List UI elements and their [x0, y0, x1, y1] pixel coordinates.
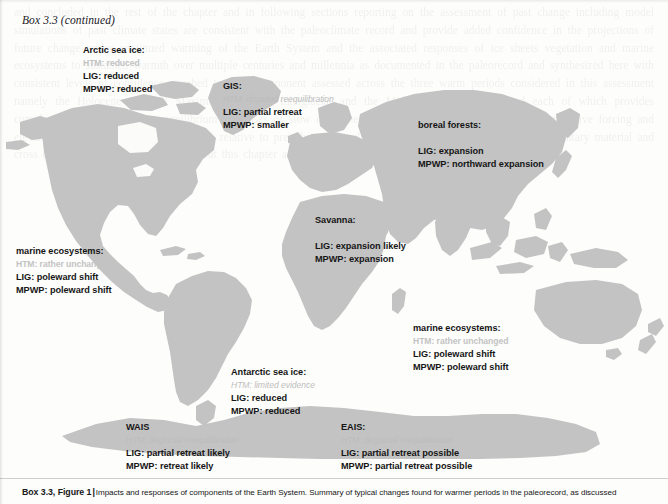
annotation-marine-ecosystems-east: marine ecosystems: HTM: rather unchanged… [413, 322, 508, 374]
annotation-title: GIS: [223, 80, 334, 93]
annotation-htm: HTM: disputed reequilibration [223, 93, 334, 106]
annotation-mpwp: MPWP: smaller [223, 119, 334, 132]
new-zealand-north-shape [648, 318, 664, 336]
box-continued-header: Box 3.3 (continued) [22, 14, 115, 26]
sulawesi-shape [548, 242, 568, 262]
annotation-title: marine ecosystems: [413, 322, 508, 335]
annotation-mpwp: MPWP: expansion [315, 253, 406, 266]
annotation-mpwp: MPWP: partial retreat possible [341, 460, 472, 473]
annotation-mpwp: MPWP: northward expansion [418, 158, 544, 171]
annotation-htm: HTM: reduced [83, 57, 152, 70]
annotation-lig: LIG: poleward shift [413, 348, 508, 361]
annotation-lig: LIG: reduced [83, 70, 152, 83]
annotation-arctic-sea-ice: Arctic sea ice: HTM: reduced LIG: reduce… [83, 44, 152, 96]
annotation-title: marine ecosystems: [16, 245, 111, 258]
annotation-mpwp: MPWP: reduced [83, 83, 152, 96]
annotation-title: Savanna: [315, 214, 406, 227]
indochina-shape [486, 216, 510, 246]
borneo-shape [514, 236, 548, 258]
annotation-htm: HTM: limited evidence [231, 379, 315, 392]
annotation-title: Antarctic sea ice: [231, 366, 315, 379]
annotation-lig: LIG: partial retreat likely [126, 447, 238, 460]
annotation-title: boreal forests: [418, 119, 544, 132]
annotation-lig: LIG: expansion likely [315, 240, 406, 253]
annotation-mpwp: MPWP: reduced [231, 405, 315, 418]
page-edge-shadow-top [0, 0, 668, 3]
annotation-htm: HTM: expansion [315, 227, 406, 240]
caption-divider [0, 478, 668, 479]
annotation-lig: LIG: expansion [418, 145, 544, 158]
arctic-island-2-shape [120, 94, 168, 111]
australia-shape [534, 280, 642, 344]
india-shape [435, 208, 472, 256]
caption-label: Box 3.3, Figure 1 [22, 487, 91, 497]
annotation-savanna: Savanna: HTM: expansion LIG: expansion l… [315, 214, 406, 266]
annotation-mpwp: MPWP: poleward shift [16, 284, 111, 297]
annotation-wais: WAIS HTM: deglacial reequilibration LIG:… [126, 421, 238, 473]
annotation-marine-ecosystems-west: marine ecosystems: HTM: rather unchanged… [16, 245, 111, 297]
figure-caption: Box 3.3, Figure 1|Impacts and responses … [22, 487, 658, 498]
hispaniola-shape [187, 252, 205, 260]
annotation-htm: HTM: rather unchanged [16, 258, 111, 271]
caribbean-shape [160, 246, 186, 256]
arctic-island-3-shape [176, 102, 206, 115]
annotation-boreal-forests: boreal forests: HTM: northward expansion… [418, 119, 544, 171]
aleutian-shape [6, 140, 30, 150]
annotation-lig: LIG: partial retreat possible [341, 447, 472, 460]
tasmania-shape [606, 348, 622, 360]
annotation-mpwp: MPWP: retreat likely [126, 460, 238, 473]
annotation-antarctic-sea-ice: Antarctic sea ice: HTM: limited evidence… [231, 366, 315, 418]
annotation-lig: LIG: partial retreat [223, 106, 334, 119]
annotation-lig: LIG: reduced [231, 392, 315, 405]
annotation-gis: GIS: HTM: disputed reequilibration LIG: … [223, 80, 334, 132]
annotation-htm: HTM: deglacial reequilibration [341, 434, 472, 447]
annotation-mpwp: MPWP: poleward shift [413, 361, 508, 374]
figure-page: and concluded in the rest of the chapter… [0, 0, 668, 504]
annotation-title: Arctic sea ice: [83, 44, 152, 57]
annotation-title: EAIS: [341, 421, 472, 434]
caption-text: Impacts and responses of components of t… [96, 488, 617, 497]
kamchatka-shape [556, 108, 580, 138]
annotation-eais: EAIS: HTM: deglacial reequilibration LIG… [341, 421, 472, 473]
java-shape [496, 262, 534, 274]
madagascar-shape [392, 288, 406, 314]
new-guinea-shape [570, 248, 628, 268]
new-zealand-south-shape [638, 334, 656, 354]
philippines-shape [534, 208, 552, 230]
annotation-htm: HTM: deglacial reequilibration [126, 434, 238, 447]
arctic-islands-shape [150, 81, 199, 99]
annotation-htm: HTM: northward expansion [418, 132, 544, 145]
annotation-lig: LIG: poleward shift [16, 271, 111, 284]
annotation-title: WAIS [126, 421, 238, 434]
annotation-htm: HTM: rather unchanged [413, 335, 508, 348]
